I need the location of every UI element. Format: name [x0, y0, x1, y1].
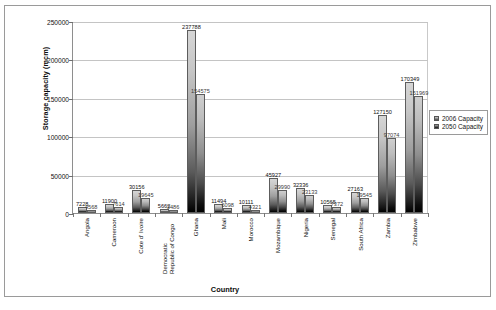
x-axis-category: Senegal: [319, 218, 346, 280]
x-axis-tick-mark: [291, 213, 292, 217]
x-axis-category: Mozambique: [264, 218, 291, 280]
x-axis-category-labels: AngolaCameroonCote d' IvoireDemocratic R…: [72, 218, 428, 280]
bar-value-label: 97074: [384, 132, 400, 138]
x-axis-tick-mark: [401, 213, 402, 217]
bar-group: 3015619645: [128, 22, 155, 213]
legend-label-2006: 2006 Capacity: [442, 115, 483, 122]
x-axis-tick-mark: [264, 213, 265, 217]
x-axis-category-label: Nigeria: [301, 218, 308, 237]
x-axis-category: Morocco: [236, 218, 263, 280]
bar-value-label: 45927: [266, 172, 282, 178]
bar-group: 105657372: [319, 22, 346, 213]
x-axis-category: Democratic Republic of Congo: [154, 218, 181, 280]
bar-value-label: 6098: [221, 202, 233, 208]
bar-value-label: 170349: [401, 76, 420, 82]
x-axis-tick-mark: [155, 213, 156, 217]
legend-item-2050: 2050 Capacity: [434, 123, 483, 130]
x-axis-title: Country: [5, 285, 445, 294]
x-axis-category-label: Angola: [82, 218, 89, 237]
x-axis-category-label: Morocco: [247, 218, 254, 241]
x-axis-ticks: [73, 213, 428, 217]
bar-value-label: 32336: [293, 182, 309, 188]
x-axis-category: Zambia: [373, 218, 400, 280]
chart-frame: Storage capacity (mcm) 05000010000015000…: [4, 5, 491, 297]
x-axis-tick-mark: [128, 213, 129, 217]
x-axis-category-label: Senegal: [329, 218, 336, 240]
bar-group: 237788154575: [182, 22, 209, 213]
bar-value-label: 30156: [129, 184, 145, 190]
y-axis-tick-label: 250000: [47, 19, 69, 26]
x-axis-category-label: South Africa: [356, 218, 363, 251]
x-axis-category: Cameroon: [99, 218, 126, 280]
x-axis-category: Angola: [72, 218, 99, 280]
x-axis-category: Zimbabwe: [401, 218, 428, 280]
bar-s2050: 19545: [360, 198, 369, 213]
bar-s2050: 29990: [278, 190, 287, 213]
bar-group: 170349151969: [401, 22, 428, 213]
legend-label-2050: 2050 Capacity: [442, 123, 483, 130]
x-axis-category-label: Ghana: [192, 218, 199, 236]
bar-s2050: 19645: [141, 198, 150, 213]
x-axis-tick-mark: [319, 213, 320, 217]
x-axis-category-label: Cote d' Ivoire: [137, 218, 144, 254]
bar-group: 4592729990: [264, 22, 291, 213]
bar-value-label: 154575: [191, 88, 210, 94]
bar-value-label: 7372: [331, 201, 343, 207]
legend-swatch-icon-2006: [434, 116, 439, 121]
chart-screenshot: Storage capacity (mcm) 05000010000015000…: [0, 0, 496, 310]
bar-groups: 7228456811900761430156196455662348623778…: [73, 22, 428, 213]
bar-group: 101114321: [237, 22, 264, 213]
x-axis-tick-mark: [373, 213, 374, 217]
x-axis-tick-mark: [428, 213, 429, 217]
x-axis-category-label: Democratic Republic of Congo: [161, 218, 175, 274]
bar-value-label: 19645: [138, 192, 154, 198]
x-axis-tick-mark: [346, 213, 347, 217]
bar-group: 114946098: [210, 22, 237, 213]
x-axis-tick-mark: [182, 213, 183, 217]
bar-group: 119007614: [100, 22, 127, 213]
x-axis-tick-mark: [73, 213, 74, 217]
bar-value-label: 151969: [410, 90, 429, 96]
bar-value-label: 4321: [249, 204, 261, 210]
x-axis-category: South Africa: [346, 218, 373, 280]
x-axis-category-label: Cameroon: [110, 218, 117, 246]
y-axis-tick-label: 150000: [47, 95, 69, 102]
bar-value-label: 127150: [373, 109, 392, 115]
bar-value-label: 7614: [112, 201, 124, 207]
bar-value-label: 29990: [275, 184, 291, 190]
bar-s2050: 23133: [305, 195, 314, 213]
bar-value-label: 3486: [167, 204, 179, 210]
bar-value-label: 23133: [302, 189, 318, 195]
plot-area: 050000100000150000200000250000 722845681…: [72, 22, 428, 214]
x-axis-tick-mark: [210, 213, 211, 217]
bar-group: 2716319545: [346, 22, 373, 213]
bar-value-label: 4568: [85, 204, 97, 210]
legend-item-2006: 2006 Capacity: [434, 115, 483, 122]
bar-group: 72284568: [73, 22, 100, 213]
bar-group: 12715097074: [373, 22, 400, 213]
bar-group: 3233623133: [292, 22, 319, 213]
x-axis-category: Cote d' Ivoire: [127, 218, 154, 280]
bar-s2050: 151969: [414, 96, 423, 213]
x-axis-category: Ghana: [182, 218, 209, 280]
x-axis-tick-mark: [237, 213, 238, 217]
bar-value-label: 237788: [182, 24, 201, 30]
x-axis-category-label: Zimbabwe: [411, 218, 418, 246]
x-axis-category: Mali: [209, 218, 236, 280]
legend-swatch-icon-2050: [434, 124, 439, 129]
x-axis-category-label: Mali: [219, 218, 226, 229]
x-axis-category: Nigeria: [291, 218, 318, 280]
bar-value-label: 19545: [357, 192, 373, 198]
bar-s2006: 237788: [187, 30, 196, 213]
bar-s2006: 170349: [405, 82, 414, 213]
chart-legend: 2006 Capacity 2050 Capacity: [429, 110, 488, 135]
bar-group: 56623486: [155, 22, 182, 213]
bar-s2050: 97074: [387, 138, 396, 213]
y-axis-tick-label: 100000: [47, 134, 69, 141]
x-axis-tick-mark: [100, 213, 101, 217]
bar-s2006: 127150: [378, 115, 387, 213]
y-axis-tick-label: 50000: [51, 172, 69, 179]
y-axis-tick-label: 200000: [47, 57, 69, 64]
x-axis-category-label: Mozambique: [274, 218, 281, 253]
x-axis-category-label: Zambia: [383, 218, 390, 238]
